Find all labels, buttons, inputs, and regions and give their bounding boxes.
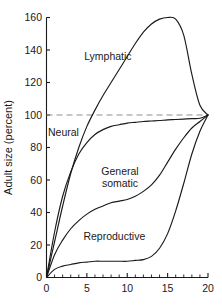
series-label-neural: Neural	[48, 126, 79, 138]
y-tick-label: 60	[30, 174, 42, 186]
x-tick-label: 0	[44, 282, 50, 294]
y-tick-label: 140	[24, 44, 42, 56]
x-tick-label: 10	[121, 282, 133, 294]
series-label-lymphatic: Lymphatic	[84, 50, 131, 62]
x-axis-tick-labels: 05101520	[44, 282, 214, 294]
chart-canvas: 020406080100120140160 05101520 Lymphatic…	[0, 0, 222, 307]
y-axis-tick-labels: 020406080100120140160	[24, 11, 42, 283]
y-tick-label: 20	[30, 239, 42, 251]
series-annotation-group: LymphaticNeuralGeneralsomaticReproductiv…	[48, 50, 145, 242]
y-tick-label: 160	[24, 11, 42, 23]
y-tick-label: 80	[30, 141, 42, 153]
curve-neural	[47, 115, 209, 278]
y-tick-label: 0	[36, 271, 42, 283]
y-axis-title: Adult size (percent)	[2, 100, 14, 195]
x-tick-label: 20	[202, 282, 214, 294]
y-axis-group: 020406080100120140160	[24, 11, 50, 283]
series-label-reproductive: Reproductive	[83, 230, 145, 242]
curve-reproductive	[47, 115, 209, 278]
y-tick-label: 120	[24, 76, 42, 88]
curve-general-somatic	[47, 115, 209, 278]
x-tick-label: 5	[84, 282, 90, 294]
series-label-general-somatic: Generalsomatic	[101, 165, 138, 189]
y-tick-label: 100	[24, 109, 42, 121]
x-axis-group: 05101520	[44, 273, 214, 294]
y-tick-label: 40	[30, 206, 42, 218]
x-tick-label: 15	[162, 282, 174, 294]
growth-curves-chart: 020406080100120140160 05101520 Lymphatic…	[0, 0, 222, 307]
